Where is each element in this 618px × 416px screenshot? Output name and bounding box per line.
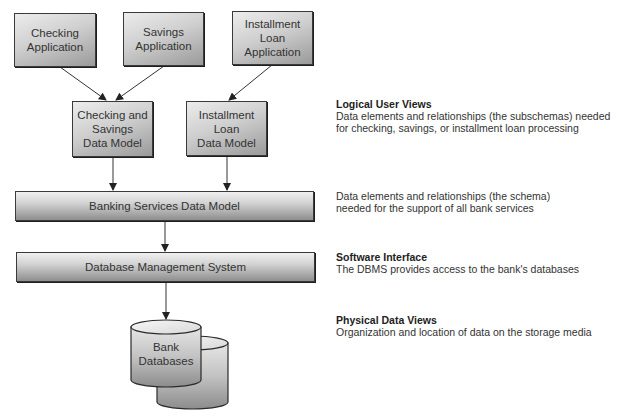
banking-services-data-model-label: Banking Services Data Model (89, 200, 240, 212)
savings-application-box: Savings Application (123, 12, 204, 66)
savings-application-label: Savings Application (135, 25, 191, 53)
checking-savings-data-model-label: Checking and Savings Data Model (77, 108, 147, 150)
dbms-label: Database Management System (85, 261, 246, 273)
arrow-checking-to-model (60, 67, 106, 100)
physical-data-views-title: Physical Data Views (336, 314, 592, 326)
annotation-schema: Data elements and relationships (the sch… (336, 190, 550, 214)
installment-loan-data-model-label: Installment Loan Data Model (197, 108, 256, 150)
checking-savings-data-model-box: Checking and Savings Data Model (72, 101, 153, 157)
checking-application-box: Checking Application (14, 13, 96, 67)
annotation-physical-data-views: Physical Data Views Organization and loc… (336, 314, 592, 338)
installment-loan-application-label: Installment Loan Application (244, 17, 300, 59)
installment-loan-application-box: Installment Loan Application (232, 11, 313, 65)
logical-user-views-line1: Data elements and relationships (the sub… (336, 110, 610, 122)
dbms-bar: Database Management System (16, 252, 315, 282)
banking-services-data-model-bar: Banking Services Data Model (15, 191, 314, 221)
physical-data-views-line1: Organization and location of data on the… (336, 326, 592, 338)
software-interface-title: Software Interface (336, 251, 579, 263)
logical-user-views-title: Logical User Views (336, 98, 610, 110)
checking-application-label: Checking Application (27, 26, 83, 54)
logical-user-views-line2: for checking, savings, or installment lo… (336, 122, 610, 134)
annotation-software-interface: Software Interface The DBMS provides acc… (336, 251, 579, 275)
schema-line2: needed for the support of all bank servi… (336, 202, 550, 214)
arrow-savings-to-model (116, 66, 164, 100)
software-interface-line1: The DBMS provides access to the bank's d… (336, 263, 579, 275)
arrow-loanapp-to-model (229, 65, 272, 100)
annotation-logical-user-views: Logical User Views Data elements and rel… (336, 98, 610, 134)
installment-loan-data-model-box: Installment Loan Data Model (186, 101, 267, 156)
bank-databases-label: Bank Databases (131, 340, 201, 368)
schema-line1: Data elements and relationships (the sch… (336, 190, 550, 202)
